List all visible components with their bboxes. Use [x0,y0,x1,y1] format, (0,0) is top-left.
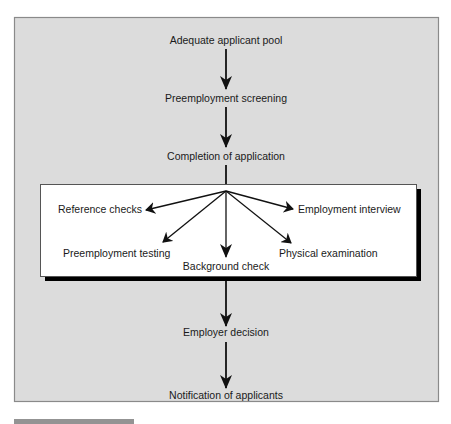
step-preemployment-screening: Preemployment screening [165,92,287,104]
activity-background-check: Background check [183,260,270,272]
selection-process-diagram: Adequate applicant pool Preemployment sc… [0,0,451,424]
activity-employment-interview: Employment interview [298,203,401,215]
figure-caption-clipped [14,417,154,424]
activity-preemployment-testing: Preemployment testing [63,247,171,259]
step-notification-of-applicants: Notification of applicants [169,389,283,401]
step-adequate-applicant-pool: Adequate applicant pool [170,34,283,46]
activity-physical-examination: Physical examination [279,247,378,259]
step-completion-of-application: Completion of application [167,150,285,162]
activity-reference-checks: Reference checks [58,203,142,215]
step-employer-decision: Employer decision [183,326,269,338]
